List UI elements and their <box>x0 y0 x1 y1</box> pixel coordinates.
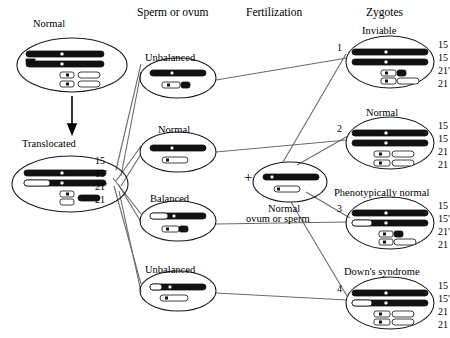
zygote-2-label-2: 21 <box>438 146 448 158</box>
translocated-parent-chromosomes <box>24 170 106 205</box>
zygote-3-label-3: 21 <box>438 239 448 251</box>
parent-karyotype-15-prime: 15' <box>95 168 107 180</box>
caption-zygote-3: Phenotypically normal <box>334 187 429 198</box>
gamete-balanced-cell <box>140 201 216 241</box>
meiosis-arrow <box>68 96 76 134</box>
zygote-4-label-1: 15' <box>438 293 450 305</box>
plus-sign: + <box>244 170 252 186</box>
caption-gamete-unbalanced-2: Unbalanced <box>145 264 195 275</box>
caption-normal-parent: Normal <box>33 18 65 29</box>
zygote-3-number: 3 <box>337 204 342 215</box>
caption-normal-partner-line2: ovum or sperm <box>246 213 310 224</box>
gamete-normal-cell <box>140 132 216 172</box>
zygote-4-number: 4 <box>337 284 342 295</box>
zygote-4-label-0: 15 <box>438 280 448 292</box>
zygote-4-label-2: 21 <box>438 306 448 318</box>
header-sperm-or-ovum: Sperm or ovum <box>137 6 209 18</box>
caption-zygote-4: Down's syndrome <box>344 266 420 277</box>
zygote-1-label-0: 15 <box>438 39 448 51</box>
zygote-1-label-3: 21 <box>438 78 448 90</box>
caption-gamete-normal: Normal <box>158 124 190 135</box>
caption-gamete-unbalanced-1: Unbalanced <box>145 52 195 63</box>
gamete-unbalanced-2-chromosomes <box>150 284 206 301</box>
zygote-1-label-1: 15 <box>438 52 448 64</box>
normal-partner-cell <box>253 162 327 202</box>
zygote-3-label-2: 21' <box>438 226 450 238</box>
gamete-unbalanced-1-chromosomes <box>150 70 206 88</box>
zygote-1-label-2: 21' <box>438 65 450 77</box>
zygote-3-chromosomes <box>352 210 428 245</box>
zygote-2-label-0: 15 <box>438 120 448 132</box>
zygote-2-label-3: 21 <box>438 159 448 171</box>
caption-gamete-balanced: Balanced <box>150 193 189 204</box>
parent-karyotype-21: 21 <box>95 194 105 206</box>
zygote-1-chromosomes <box>352 49 428 84</box>
normal-parent-chromosomes <box>26 51 104 87</box>
parent-karyotype-21-prime: 21' <box>95 181 107 193</box>
header-fertilization: Fertilization <box>246 6 302 18</box>
parent-karyotype-15: 15 <box>95 155 105 167</box>
zygote-1-number: 1 <box>337 43 342 54</box>
zygote-3-label-0: 15 <box>438 200 448 212</box>
gamete-balanced-chromosomes <box>150 213 206 232</box>
gamete-unbalanced-1-cell <box>140 58 216 98</box>
zygote-3-label-1: 15' <box>438 213 450 225</box>
gamete-normal-chromosomes <box>150 145 206 163</box>
zygote-4-chromosomes <box>352 290 428 325</box>
normal-partner-chromosomes <box>263 174 319 192</box>
caption-zygote-2: Normal <box>366 107 398 118</box>
zygote-2-chromosomes <box>352 130 428 166</box>
zygote-4-label-3: 21 <box>438 319 448 331</box>
zygote-2-number: 2 <box>337 124 342 135</box>
caption-translocated-parent: Translocated <box>22 138 76 149</box>
zygote-2-label-1: 15 <box>438 133 448 145</box>
gamete-unbalanced-2-cell <box>140 271 216 311</box>
header-zygotes: Zygotes <box>366 6 403 18</box>
caption-zygote-1: Inviable <box>362 25 396 36</box>
